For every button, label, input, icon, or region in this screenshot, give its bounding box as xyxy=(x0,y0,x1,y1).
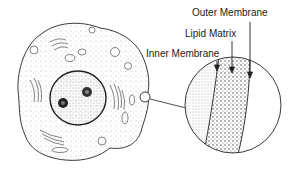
inner-membrane-label: Inner Membrane xyxy=(146,48,219,59)
nucleus xyxy=(50,71,106,125)
callout-line xyxy=(150,99,186,108)
cell-diagram xyxy=(0,0,293,183)
lipid-matrix-label: Lipid Matrix xyxy=(185,28,236,39)
magnification-point xyxy=(140,92,150,102)
outer-membrane-label: Outer Membrane xyxy=(192,7,268,18)
magnified-membrane xyxy=(180,55,290,165)
